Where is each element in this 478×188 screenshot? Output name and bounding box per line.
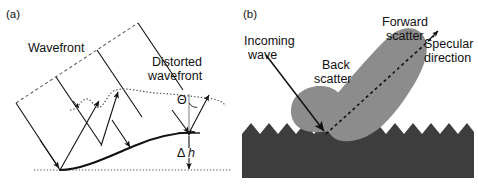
theta-arc bbox=[189, 103, 197, 107]
delta-h-label-h: h bbox=[188, 146, 195, 160]
delta-h-label-delta: Δ bbox=[177, 146, 185, 160]
distorted-wavefront-label-line2: wavefront bbox=[147, 69, 203, 83]
incoming-wave-label-line2: wave bbox=[247, 48, 277, 62]
rough-surface-curve bbox=[60, 132, 194, 170]
panel-a: (a) Wavefront Distorted wavefront Θ Δ h bbox=[0, 0, 238, 188]
specular-direction-label-line1: Specular bbox=[424, 37, 473, 51]
panel-b-label: (b) bbox=[243, 8, 257, 20]
back-scatter-label-line1: Back bbox=[322, 58, 351, 72]
incident-arrow-3 bbox=[172, 110, 189, 133]
incident-arrow-2 bbox=[112, 120, 130, 147]
panel-a-graphic: (a) Wavefront Distorted wavefront Θ Δ h bbox=[0, 0, 238, 188]
wavefront-label: Wavefront bbox=[28, 41, 85, 55]
figure-container: (a) Wavefront Distorted wavefront Θ Δ h bbox=[0, 0, 478, 188]
incident-arrow-1 bbox=[40, 140, 59, 168]
panel-b-graphic: (b) Incoming wave Back scatter Forward s… bbox=[238, 0, 478, 188]
incident-ray-3 bbox=[97, 50, 142, 117]
scattered-ray-2 bbox=[101, 92, 118, 146]
incident-wavefront-line bbox=[16, 23, 138, 103]
scattered-ray-3 bbox=[189, 95, 209, 133]
theta-label: Θ bbox=[177, 93, 187, 107]
distorted-wavefront-label-line1: Distorted bbox=[152, 55, 202, 69]
panel-a-label: (a) bbox=[6, 8, 20, 20]
forward-scatter-label-line1: Forward bbox=[382, 15, 428, 29]
incoming-wave-label-line1: Incoming bbox=[244, 34, 295, 48]
back-scatter-label-line2: scatter bbox=[314, 72, 352, 86]
panel-b: (b) Incoming wave Back scatter Forward s… bbox=[238, 0, 478, 188]
specular-direction-label-line2: direction bbox=[424, 51, 471, 65]
forward-scatter-label-line2: scatter bbox=[386, 29, 424, 43]
